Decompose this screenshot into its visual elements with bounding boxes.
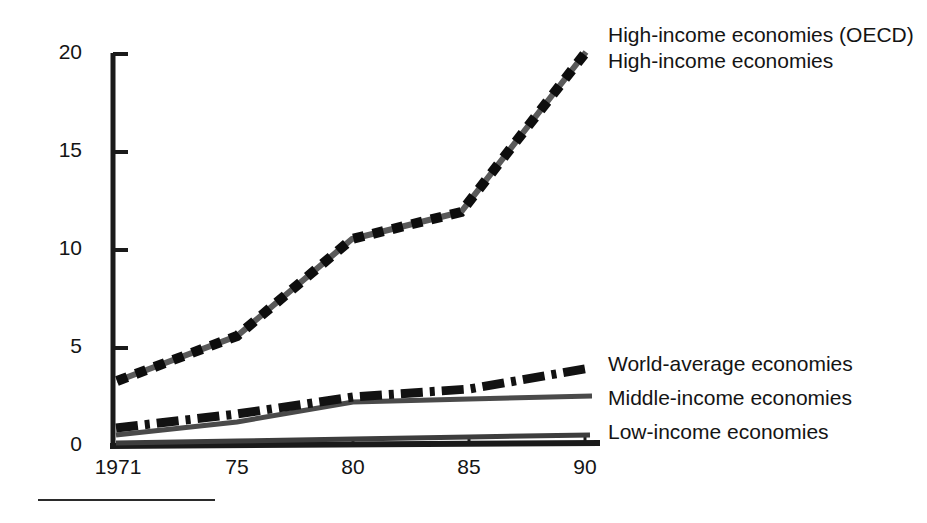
chart-figure: 20 15 10 5 0 1971 75 80 85 90 High-incom… bbox=[0, 0, 927, 523]
series-line-high-income-base bbox=[117, 52, 586, 381]
legend-item-world-average: World-average economies bbox=[608, 351, 853, 377]
y-tick-label-15: 15 bbox=[22, 138, 82, 162]
x-tick-label-1971: 1971 bbox=[76, 455, 160, 479]
legend-item-middle-income: Middle-income economies bbox=[608, 385, 852, 411]
y-tick-label-10: 10 bbox=[22, 236, 82, 260]
y-tick-label-0: 0 bbox=[22, 432, 82, 456]
series-line-high-income bbox=[117, 52, 586, 381]
x-tick-label-75: 75 bbox=[205, 455, 269, 479]
y-tick-label-5: 5 bbox=[22, 334, 82, 358]
legend-item-high-income: High-income economies bbox=[608, 48, 833, 74]
x-tick-label-85: 85 bbox=[437, 455, 501, 479]
legend-item-high-income-oecd: High-income economies (OECD) bbox=[608, 22, 914, 48]
y-tick-label-20: 20 bbox=[22, 40, 82, 64]
x-tick-label-90: 90 bbox=[553, 455, 617, 479]
x-tick-label-80: 80 bbox=[321, 455, 385, 479]
footer-rule bbox=[38, 499, 215, 501]
legend-item-low-income: Low-income economies bbox=[608, 419, 829, 445]
